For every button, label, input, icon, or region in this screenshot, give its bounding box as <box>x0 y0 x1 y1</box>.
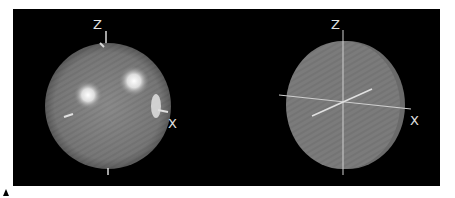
render-canvas: Z X Z X <box>0 0 455 198</box>
x-axis-label: X <box>410 113 419 128</box>
highlight-spot <box>74 81 102 109</box>
z-axis-label: Z <box>331 17 340 32</box>
highlight-patch <box>151 94 161 118</box>
x-axis-label: X <box>168 116 177 131</box>
highlight-spot <box>119 66 149 96</box>
disc-view: Z X <box>279 17 419 175</box>
sphere-view: Z X <box>45 17 177 175</box>
z-axis-label: Z <box>93 17 102 32</box>
